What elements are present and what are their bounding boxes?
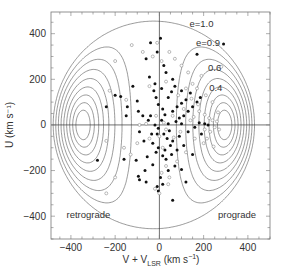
point-filled [149, 114, 152, 117]
annotation-retrograde: retrograde [66, 209, 110, 220]
point-filled [159, 37, 162, 40]
point-open [145, 122, 148, 125]
point-filled [152, 89, 155, 92]
point-filled [176, 105, 179, 108]
point-filled [184, 180, 187, 183]
point-open [205, 137, 208, 140]
point-filled [119, 95, 122, 98]
point-filled [162, 64, 165, 67]
point-open [202, 142, 205, 145]
point-filled [168, 129, 171, 132]
point-open [211, 119, 214, 122]
x-tick-label: 200 [195, 242, 212, 253]
point-open [189, 119, 192, 122]
point-filled [161, 107, 164, 110]
point-open [162, 121, 165, 124]
point-open [165, 128, 168, 131]
point-open [172, 136, 175, 139]
point-filled [159, 176, 162, 179]
y-tick-label: 400 [29, 28, 46, 39]
point-filled [146, 155, 149, 158]
point-filled [150, 133, 153, 136]
point-filled [138, 178, 141, 181]
point-filled [145, 57, 148, 60]
point-filled [191, 105, 194, 108]
point-filled [126, 105, 129, 108]
point-filled [157, 127, 160, 130]
point-filled [141, 114, 144, 117]
point-filled [182, 144, 185, 147]
contour-labels: e=1.0e=0.90.60.4 [189, 18, 222, 93]
point-open [114, 176, 117, 179]
point-filled [180, 168, 183, 171]
point-filled [171, 139, 174, 142]
point-open [176, 160, 179, 163]
point-open [203, 128, 206, 131]
point-filled [198, 121, 201, 124]
point-filled [167, 169, 170, 172]
point-filled [174, 120, 177, 123]
annotations: retrogradeprograde [66, 209, 256, 220]
x-axis-label-subscript: LSR [147, 260, 161, 267]
point-open [158, 135, 161, 138]
point-open [123, 146, 126, 149]
y-tick-label: 200 [29, 74, 46, 85]
x-axis-label: V + VLSR (km s−1) [123, 253, 200, 267]
point-open [168, 50, 171, 53]
point-filled [142, 139, 145, 142]
point-open [141, 50, 144, 53]
point-filled [193, 126, 196, 129]
point-filled [178, 135, 181, 138]
point-filled [137, 175, 140, 178]
point-filled [200, 133, 203, 136]
point-filled [170, 90, 173, 93]
point-open [136, 142, 139, 145]
point-filled [161, 154, 164, 157]
point-open [108, 89, 111, 92]
point-open [156, 41, 159, 44]
contour-label: e=1.0 [189, 18, 213, 29]
point-filled [148, 76, 151, 79]
point-filled [163, 113, 166, 116]
point-filled [184, 98, 187, 101]
point-open [148, 137, 151, 140]
point-filled [114, 94, 117, 97]
point-open [191, 82, 194, 85]
point-open [184, 87, 187, 90]
point-filled [189, 91, 192, 94]
point-filled [162, 133, 165, 136]
point-open [213, 126, 216, 129]
point-open [165, 80, 168, 83]
plot-frame [51, 12, 270, 239]
point-filled [169, 144, 172, 147]
point-open [173, 57, 176, 60]
point-open [218, 128, 221, 131]
point-filled [180, 89, 183, 92]
eccentricity-velocity-chart: −400−2000200400−400−2000200400 e=1.0e=0.… [0, 0, 284, 280]
point-open [208, 117, 211, 120]
point-open [168, 176, 171, 179]
point-filled [151, 163, 154, 166]
point-filled [171, 199, 174, 202]
point-filled [155, 96, 158, 99]
point-open [197, 103, 200, 106]
x-tick-label: 0 [157, 242, 163, 253]
point-open [212, 145, 215, 148]
point-filled [199, 96, 202, 99]
point-open [105, 192, 108, 195]
point-open [179, 130, 182, 133]
point-filled [153, 123, 156, 126]
zero-lines [51, 12, 270, 239]
point-filled [157, 103, 160, 106]
point-filled [187, 130, 190, 133]
point-open [203, 113, 206, 116]
point-filled [125, 114, 128, 117]
point-filled [149, 41, 152, 44]
point-filled [171, 110, 174, 113]
point-open [198, 110, 201, 113]
point-open [196, 87, 199, 90]
point-open [160, 171, 163, 174]
y-tick-label: −400 [23, 211, 46, 222]
point-open [193, 137, 196, 140]
point-open [187, 71, 190, 74]
